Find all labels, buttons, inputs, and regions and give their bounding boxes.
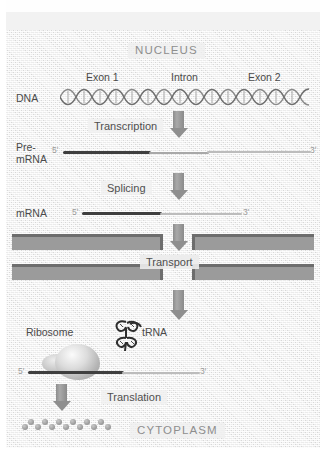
nuclear-membrane-outer-right	[192, 234, 314, 250]
nucleus-region-label: NUCLEUS	[128, 43, 205, 58]
exon2-label: Exon 2	[248, 72, 281, 84]
pre-mrna-label-line2: mRNA	[16, 154, 47, 166]
exon1-label: Exon 1	[86, 72, 119, 84]
mrna-five-prime-label: 5'	[72, 208, 78, 218]
mrna-label: mRNA	[16, 208, 47, 220]
nuclear-membrane-outer-left	[12, 234, 163, 250]
translating-mrna-five-prime-label: 5'	[18, 367, 24, 377]
translation-arrow-icon	[52, 384, 71, 411]
cytoplasm-region-label: CYTOPLASM	[130, 423, 225, 438]
right-white-margin	[320, 0, 326, 455]
ribosome-label: Ribosome	[26, 327, 73, 339]
trna-icon	[110, 318, 144, 354]
polypeptide-chain	[22, 416, 114, 434]
translating-mrna-three-prime-label: 3'	[200, 367, 206, 377]
translating-mrna-strand	[28, 371, 200, 376]
mrna-three-prime-label: 3'	[243, 208, 249, 218]
dna-label: DNA	[16, 93, 38, 105]
translation-stage-label: Translation	[101, 390, 167, 404]
nuclear-membrane-inner-right	[192, 264, 314, 280]
intron-label: Intron	[171, 72, 198, 84]
left-white-margin	[0, 0, 6, 455]
trna-label: tRNA	[142, 327, 167, 339]
pre-mrna-strand	[63, 150, 311, 155]
transcription-stage-label: Transcription	[88, 119, 163, 133]
splicing-stage-label: Splicing	[101, 181, 152, 195]
pre-mrna-label-line1: Pre-	[16, 142, 36, 154]
transport-stage-label: Transport	[140, 255, 199, 269]
pre-mrna-five-prime-label: 5'	[52, 146, 58, 156]
transport-in-arrow-icon	[169, 224, 188, 251]
bottom-white-margin	[0, 448, 326, 455]
top-white-margin	[0, 0, 326, 12]
transport-out-arrow-icon	[169, 290, 188, 320]
mrna-strand	[82, 212, 242, 217]
dna-double-helix-icon	[60, 84, 310, 110]
top-gray-band	[6, 12, 320, 30]
gene-expression-diagram: NUCLEUS Exon 1 Intron Exon 2 DNA	[0, 0, 326, 455]
transcription-arrow-icon	[169, 111, 188, 138]
splicing-arrow-icon	[169, 173, 188, 200]
